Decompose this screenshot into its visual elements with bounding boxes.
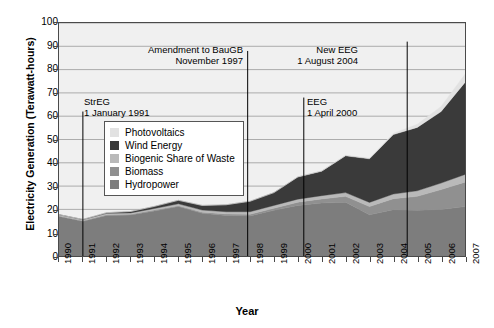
x-tick-label: 1993 bbox=[134, 243, 145, 264]
x-tick-label: 1997 bbox=[230, 243, 241, 264]
x-tick-mark bbox=[322, 257, 323, 262]
legend-swatch-icon bbox=[110, 167, 119, 176]
legend-label: Biomass bbox=[125, 167, 163, 177]
x-tick-label: 2005 bbox=[422, 243, 433, 264]
x-tick-mark bbox=[226, 257, 227, 262]
annotation-label: Amendment to BauGB November 1997 bbox=[125, 44, 243, 66]
x-tick-mark bbox=[418, 257, 419, 262]
x-tick-label: 2004 bbox=[398, 243, 409, 264]
x-tick-mark bbox=[442, 257, 443, 262]
legend-swatch-icon bbox=[110, 180, 119, 189]
x-tick-mark bbox=[274, 257, 275, 262]
x-tick-label: 1995 bbox=[182, 243, 193, 264]
chart-figure: Electricity Generation (Terawatt-hours) … bbox=[0, 0, 494, 328]
y-tick-mark bbox=[53, 140, 58, 141]
x-tick-label: 1991 bbox=[86, 243, 97, 264]
x-tick-label: 1999 bbox=[278, 243, 289, 264]
legend-item: Biogenic Share of Waste bbox=[110, 152, 235, 165]
x-tick-label: 2002 bbox=[350, 243, 361, 264]
x-tick-mark bbox=[58, 257, 59, 262]
x-tick-label: 2003 bbox=[374, 243, 385, 264]
y-tick-mark bbox=[53, 163, 58, 164]
x-tick-label: 1992 bbox=[110, 243, 121, 264]
x-tick-label: 1994 bbox=[158, 243, 169, 264]
x-tick-label: 2006 bbox=[446, 243, 457, 264]
x-tick-label: 1998 bbox=[254, 243, 265, 264]
legend-item: Hydropower bbox=[110, 178, 235, 191]
legend-swatch-icon bbox=[110, 141, 119, 150]
annotation-label: EEG 1 April 2000 bbox=[307, 96, 357, 118]
legend-label: Wind Energy bbox=[125, 141, 182, 151]
legend-swatch-icon bbox=[110, 154, 119, 163]
y-tick-mark bbox=[53, 22, 58, 23]
y-tick-mark bbox=[53, 234, 58, 235]
x-tick-mark bbox=[370, 257, 371, 262]
x-tick-label: 2000 bbox=[302, 243, 313, 264]
x-tick-mark bbox=[346, 257, 347, 262]
annotation-label: StrEG 1 January 1991 bbox=[84, 96, 150, 118]
legend-label: Photovoltaics bbox=[125, 128, 184, 138]
chart-legend: PhotovoltaicsWind EnergyBiogenic Share o… bbox=[104, 121, 244, 196]
x-tick-mark bbox=[250, 257, 251, 262]
y-tick-mark bbox=[53, 116, 58, 117]
x-tick-mark bbox=[298, 257, 299, 262]
x-tick-label: 2001 bbox=[326, 243, 337, 264]
y-tick-mark bbox=[53, 93, 58, 94]
x-tick-label: 2007 bbox=[470, 243, 481, 264]
legend-label: Hydropower bbox=[125, 180, 179, 190]
legend-label: Biogenic Share of Waste bbox=[125, 154, 235, 164]
legend-item: Wind Energy bbox=[110, 139, 235, 152]
y-tick-mark bbox=[53, 46, 58, 47]
x-tick-mark bbox=[106, 257, 107, 262]
x-tick-mark bbox=[202, 257, 203, 262]
x-tick-mark bbox=[82, 257, 83, 262]
x-tick-mark bbox=[178, 257, 179, 262]
legend-item: Biomass bbox=[110, 165, 235, 178]
x-tick-mark bbox=[154, 257, 155, 262]
x-tick-mark bbox=[466, 257, 467, 262]
y-tick-mark bbox=[53, 69, 58, 70]
x-axis-title: Year bbox=[0, 305, 494, 317]
x-tick-label: 1990 bbox=[62, 243, 73, 264]
x-tick-mark bbox=[394, 257, 395, 262]
y-tick-mark bbox=[53, 210, 58, 211]
y-tick-mark bbox=[53, 257, 58, 258]
x-tick-label: 1996 bbox=[206, 243, 217, 264]
y-tick-mark bbox=[53, 187, 58, 188]
legend-swatch-icon bbox=[110, 128, 119, 137]
annotation-label: New EEG 1 August 2004 bbox=[240, 44, 358, 66]
x-tick-mark bbox=[130, 257, 131, 262]
legend-item: Photovoltaics bbox=[110, 126, 235, 139]
